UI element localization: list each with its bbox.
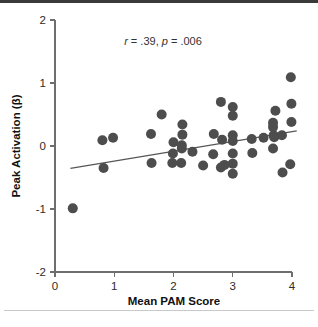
y-tick-label: 1 xyxy=(40,77,46,89)
x-tick-label: 3 xyxy=(230,280,236,292)
x-tick-label: 4 xyxy=(289,280,296,292)
data-point xyxy=(167,158,177,168)
x-tick-label: 2 xyxy=(170,280,176,292)
data-point xyxy=(187,147,197,157)
x-tick-label: 0 xyxy=(52,280,58,292)
data-point xyxy=(247,134,257,144)
bottom-divider-rule xyxy=(4,310,314,311)
data-point xyxy=(259,133,269,143)
data-point xyxy=(216,97,226,107)
data-points-group xyxy=(68,72,297,213)
data-point xyxy=(268,144,278,154)
data-point xyxy=(286,117,296,127)
scatter-plot: 210-1-2 01234 Peak Activation (β) Mean P… xyxy=(0,0,318,327)
data-point xyxy=(285,159,295,169)
data-point xyxy=(147,158,157,168)
data-point xyxy=(228,169,238,179)
y-axis-ticks: 210-1-2 xyxy=(36,14,55,278)
data-point xyxy=(177,130,187,140)
data-point xyxy=(146,129,156,139)
y-tick-label: 2 xyxy=(40,14,46,26)
data-point xyxy=(270,106,280,116)
y-tick-label: 0 xyxy=(40,140,46,152)
y-tick-label: -2 xyxy=(36,266,46,278)
data-point xyxy=(209,129,219,139)
data-point xyxy=(217,135,227,145)
x-axis-ticks: 01234 xyxy=(52,272,296,292)
data-point xyxy=(228,136,238,146)
data-point xyxy=(97,135,107,145)
y-tick-label: -1 xyxy=(36,203,46,215)
figure-container: 210-1-2 01234 Peak Activation (β) Mean P… xyxy=(0,0,318,327)
data-point xyxy=(286,72,296,82)
data-point xyxy=(247,148,257,158)
data-point xyxy=(99,163,109,173)
correlation-annotation: r = .39, p = .006 xyxy=(124,35,202,47)
data-point xyxy=(228,149,238,159)
data-point xyxy=(278,167,288,177)
data-point xyxy=(208,149,218,159)
data-point xyxy=(228,102,238,112)
data-point xyxy=(157,110,167,120)
data-point xyxy=(168,149,178,159)
x-axis-title: Mean PAM Score xyxy=(128,295,220,307)
data-point xyxy=(286,99,296,109)
data-point xyxy=(68,203,78,213)
data-point xyxy=(228,159,238,169)
x-tick-label: 1 xyxy=(111,280,117,292)
data-point xyxy=(176,158,186,168)
y-axis-title: Peak Activation (β) xyxy=(10,94,22,197)
data-point xyxy=(177,120,187,130)
data-point xyxy=(177,144,187,154)
data-point xyxy=(277,130,287,140)
data-point xyxy=(228,111,238,121)
data-point xyxy=(108,133,118,143)
data-point xyxy=(198,161,208,171)
